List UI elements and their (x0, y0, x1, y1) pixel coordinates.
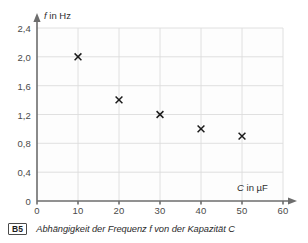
figure-badge: B5 (8, 223, 27, 236)
x-tick-label: 0 (25, 205, 49, 216)
y-tick-label: 0,4 (5, 167, 31, 178)
x-axis-title: C in µF (237, 182, 268, 193)
x-axis-unit: in µF (244, 182, 268, 193)
y-tick-label: 0,8 (5, 138, 31, 149)
y-tick-label: 2,4 (5, 23, 31, 34)
x-tick-label: 10 (66, 205, 90, 216)
x-tick-label: 40 (189, 205, 213, 216)
y-tick-label: 1,2 (5, 110, 31, 121)
x-tick-label: 30 (148, 205, 172, 216)
y-axis-unit: in Hz (47, 10, 71, 21)
figure-caption-text: Abhängigkeit der Frequenz f von der Kapa… (36, 224, 235, 234)
x-axis-variable: C (237, 182, 244, 193)
figure-scatter-frequency-capacitance: 2,4 2,0 1,6 1,2 0,8 0,4 0 0 10 20 30 40 … (0, 0, 308, 243)
y-tick-label: 2,0 (5, 52, 31, 63)
plot-area: 2,4 2,0 1,6 1,2 0,8 0,4 0 0 10 20 30 40 … (0, 0, 308, 215)
x-axis-arrow-icon (288, 197, 297, 204)
figure-caption: B5 Abhängigkeit der Frequenz f von der K… (0, 219, 308, 239)
y-axis-title: f in Hz (44, 10, 71, 21)
y-axis-arrow-icon (33, 13, 40, 22)
x-tick-label: 20 (107, 205, 131, 216)
x-tick-label: 50 (230, 205, 254, 216)
x-tick-label: 60 (271, 205, 295, 216)
y-tick-label: 1,6 (5, 81, 31, 92)
